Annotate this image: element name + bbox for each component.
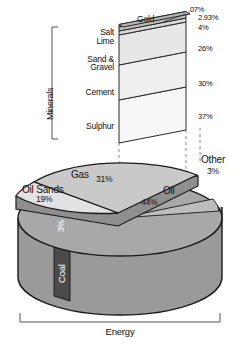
segment-label-cement: Cement bbox=[56, 88, 114, 97]
segment-pct-salt: 2.93% bbox=[198, 14, 218, 22]
segment-pct-sand-gravel: 26% bbox=[198, 45, 212, 53]
pie-pct-oil: 44% bbox=[141, 198, 157, 207]
segment-pct-sulphur: 37% bbox=[198, 113, 212, 121]
pie-label-oil: Oil bbox=[163, 186, 175, 196]
segment-label-sulphur: Sulphur bbox=[56, 122, 114, 131]
minerals-stacked-bar bbox=[119, 12, 190, 144]
pie-pct-other: 3% bbox=[207, 167, 219, 176]
segment-label-sand-gravel-line2: Gravel bbox=[56, 63, 114, 72]
pie-pct-gas: 31% bbox=[96, 175, 112, 184]
pie-pct-coal: 3% bbox=[57, 220, 66, 232]
pie-label-coal: Coal bbox=[57, 264, 67, 283]
energy-group-label: Energy bbox=[0, 327, 240, 337]
segment-pct-lime: 4% bbox=[198, 24, 208, 32]
segment-label-lime: Lime bbox=[60, 37, 114, 46]
pie-label-gas: Gas bbox=[71, 170, 89, 180]
pie-pct-oil-sands: 19% bbox=[36, 195, 52, 204]
minerals-group-label: Minerals bbox=[46, 88, 55, 120]
pie-label-other: Other bbox=[201, 155, 225, 165]
segment-pct-cement: 30% bbox=[198, 80, 212, 88]
segment-label-gold: Gold bbox=[137, 15, 154, 24]
